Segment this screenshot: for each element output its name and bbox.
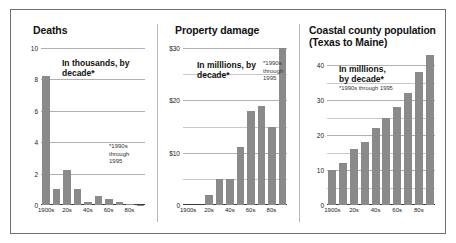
- bar: [237, 147, 245, 205]
- bar: [205, 195, 213, 205]
- chart-panel-deaths: Deaths 0246810 1900s20s40s60s80s In thou…: [17, 10, 155, 235]
- chart-footnote-property-damage: *1990s through 1995: [263, 60, 283, 83]
- bar: [393, 107, 401, 205]
- bar: [268, 127, 276, 206]
- bar: [105, 199, 113, 205]
- y-axis-tick-label: 4: [34, 139, 38, 146]
- y-axis-tick-label: 10: [31, 45, 38, 52]
- bar: [328, 170, 336, 205]
- y-axis-tick-label: 20: [317, 132, 324, 139]
- bar: [426, 55, 434, 205]
- x-axis-tick-label: 40s: [371, 207, 381, 213]
- bar: [258, 106, 266, 205]
- bar: [74, 189, 82, 205]
- x-axis-tick-label: 40s: [225, 207, 235, 213]
- x-axis-tick-label: 20s: [204, 207, 214, 213]
- bar: [372, 128, 380, 205]
- x-tick-labels-property-damage: 1900s20s40s60s80s: [183, 207, 287, 219]
- chart-title-property-damage: Property damage: [175, 25, 259, 37]
- bar: [350, 149, 358, 205]
- bar: [226, 179, 234, 205]
- bar: [382, 118, 390, 205]
- x-axis-tick-label: 60s: [246, 207, 256, 213]
- y-axis-tick-label: 6: [34, 107, 38, 114]
- chart-footnote-deaths: *1990s through 1995: [109, 143, 129, 166]
- x-axis-tick-label: 60s: [104, 207, 114, 213]
- panel-divider-1: [157, 24, 158, 222]
- bar: [84, 202, 92, 205]
- bar: [53, 189, 61, 205]
- chart-panel-property-damage: Property damage 0$10$20$30 1900s20s40s60…: [159, 10, 297, 235]
- chart-footnote-coastal-population: *1990s through 1995: [339, 85, 393, 93]
- infographic-figure: Deaths 0246810 1900s20s40s60s80s In thou…: [0, 0, 456, 243]
- chart-panel-coastal-population: Coastal county population (Texas to Main…: [301, 10, 443, 235]
- chart-subtitle-deaths: In thousands, by decade*: [62, 58, 130, 78]
- x-axis-tick-label: 1900s: [180, 207, 196, 213]
- figure-frame: Deaths 0246810 1900s20s40s60s80s In thou…: [10, 9, 446, 234]
- y-axis-tick-label: 8: [34, 76, 38, 83]
- bar: [361, 142, 369, 205]
- bar: [95, 196, 103, 205]
- bar: [42, 76, 50, 205]
- x-axis-tick-label: 80s: [125, 207, 135, 213]
- x-axis-tick-label: 20s: [349, 207, 359, 213]
- y-axis-tick-label: $30: [169, 45, 180, 52]
- x-tick-labels-deaths: 1900s20s40s60s80s: [41, 207, 145, 219]
- bar: [247, 111, 255, 205]
- bar: [63, 170, 71, 205]
- y-axis-tick-label: 2: [34, 170, 38, 177]
- chart-subtitle-coastal-population: In milllions, by decade*: [339, 64, 386, 84]
- y-axis-tick-label: $20: [169, 97, 180, 104]
- x-axis-tick-label: 80s: [414, 207, 424, 213]
- x-axis-tick-label: 80s: [267, 207, 277, 213]
- bar: [339, 163, 347, 205]
- bar: [126, 204, 134, 205]
- y-axis-tick-label: 10: [317, 167, 324, 174]
- x-axis-tick-label: 60s: [392, 207, 402, 213]
- bar: [216, 179, 224, 205]
- x-tick-labels-coastal-population: 1900s20s40s60s80s: [327, 207, 435, 219]
- chart-title-deaths: Deaths: [33, 25, 67, 37]
- chart-title-coastal-population: Coastal county population (Texas to Main…: [309, 25, 436, 48]
- y-axis-tick-label: 40: [317, 62, 324, 69]
- bar: [404, 93, 412, 205]
- x-axis-tick-label: 1900s: [324, 207, 340, 213]
- y-axis-tick-label: 30: [317, 97, 324, 104]
- chart-subtitle-property-damage: In milllions, by decade*: [197, 60, 256, 80]
- y-axis-tick-label: $10: [169, 149, 180, 156]
- x-axis-tick-label: 20s: [62, 207, 72, 213]
- bar: [415, 72, 423, 205]
- x-axis-tick-label: 1900s: [38, 207, 54, 213]
- panel-divider-2: [299, 24, 300, 222]
- bar: [116, 202, 124, 205]
- x-axis-tick-label: 40s: [83, 207, 93, 213]
